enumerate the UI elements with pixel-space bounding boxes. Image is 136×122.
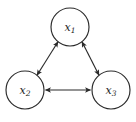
edge-x1-x2 (37, 42, 58, 75)
edge-x1-x3 (82, 42, 99, 75)
node-x3-subscript: 3 (112, 89, 117, 98)
node-x2-subscript: 2 (25, 89, 31, 98)
node-x1-subscript: 1 (71, 26, 76, 35)
graph-svg: x1 x2 x3 (0, 0, 136, 122)
diagram-canvas: x1 x2 x3 (0, 0, 136, 122)
